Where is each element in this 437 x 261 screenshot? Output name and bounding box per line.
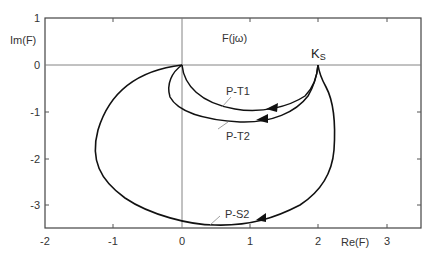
chart-title: F(jω): [222, 32, 247, 44]
y-axis-label: Im(F): [10, 34, 36, 46]
nyquist-chart: -2 -1 0 1 2 3 1 0 -1 -2 -3 Im(F) Re(F) F…: [0, 0, 437, 261]
x-axis-label: Re(F): [341, 236, 369, 248]
x-tick-label: 2: [315, 235, 321, 247]
series-label-p-t2: P-T2: [226, 130, 250, 142]
series-p-t1-curve: [182, 65, 318, 111]
x-tick-label: -2: [40, 235, 50, 247]
y-tick-label: 0: [34, 59, 40, 71]
x-tick-label: 3: [384, 235, 390, 247]
leader-line: [218, 122, 228, 129]
leader-line: [210, 216, 220, 225]
y-tick-label: -2: [30, 153, 40, 165]
leader-line: [222, 97, 231, 107]
ks-annotation: KS: [311, 46, 326, 62]
x-tick-label: -1: [108, 235, 118, 247]
direction-arrow-icon: [266, 103, 278, 112]
series-label-p-t1: P-T1: [226, 85, 250, 97]
y-tick-label: -3: [30, 199, 40, 211]
y-ticks: [45, 112, 421, 205]
x-tick-label: 1: [247, 235, 253, 247]
plot-frame: [45, 18, 421, 228]
series-p-s2-curve: [95, 65, 334, 225]
y-tick-label: 1: [34, 12, 40, 24]
x-ticks: [113, 18, 387, 228]
x-tick-label: 0: [179, 235, 185, 247]
y-tick-label: -1: [30, 106, 40, 118]
series-label-p-s2: P-S2: [225, 208, 249, 220]
